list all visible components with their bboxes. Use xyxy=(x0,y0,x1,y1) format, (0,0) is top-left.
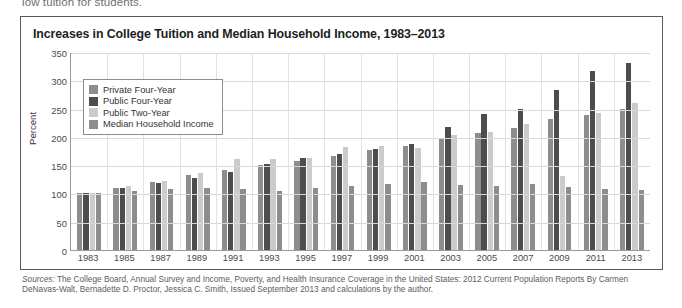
vertical-gridline xyxy=(433,53,434,250)
bar-group xyxy=(541,53,577,250)
x-axis-ticks: 1983198519871989199119931995199719992001… xyxy=(70,253,650,267)
x-tick-label: 1993 xyxy=(251,253,287,267)
bar-group xyxy=(469,53,505,250)
x-tick-label: 2013 xyxy=(614,253,650,267)
bar xyxy=(343,147,348,250)
y-axis-ticks: 050100150200250300350 xyxy=(35,53,67,251)
bar xyxy=(270,159,275,250)
bar xyxy=(228,172,233,250)
x-tick-label: 1989 xyxy=(179,253,215,267)
y-tick-label: 150 xyxy=(35,161,67,172)
bar xyxy=(373,149,378,250)
bar xyxy=(331,156,336,250)
vertical-gridline xyxy=(324,53,325,250)
bar xyxy=(518,109,523,250)
bar xyxy=(300,158,305,250)
x-tick-label: 1991 xyxy=(215,253,251,267)
bar xyxy=(168,189,173,250)
x-tick-label: 2011 xyxy=(578,253,614,267)
x-tick-label: 1987 xyxy=(143,253,179,267)
bar xyxy=(596,113,601,250)
x-tick-label: 2001 xyxy=(396,253,432,267)
bar xyxy=(445,127,450,250)
bar xyxy=(204,188,209,250)
legend-item[interactable]: Public Four-Year xyxy=(89,96,214,108)
x-tick-label: 1999 xyxy=(360,253,396,267)
x-tick-label: 1983 xyxy=(70,253,106,267)
legend-swatch-icon xyxy=(89,108,98,117)
bar xyxy=(277,191,282,250)
sources-label: Sources: xyxy=(22,274,55,284)
bar xyxy=(524,124,529,250)
plot-area-wrapper: Percent 050100150200250300350 1983198519… xyxy=(21,17,664,269)
bar xyxy=(337,154,342,250)
bar-group xyxy=(252,53,288,250)
bar xyxy=(113,188,118,250)
bar xyxy=(162,181,167,250)
bar xyxy=(132,191,137,250)
bar-group xyxy=(361,53,397,250)
y-tick-label: 100 xyxy=(35,189,67,200)
page-root: low tuition for students. Increases in C… xyxy=(0,0,682,308)
bar-group xyxy=(614,53,650,250)
bar xyxy=(150,182,155,250)
legend-label: Median Household Income xyxy=(103,119,214,129)
bar xyxy=(639,190,644,250)
y-tick-label: 50 xyxy=(35,217,67,228)
vertical-gridline xyxy=(397,53,398,250)
legend-item[interactable]: Private Four-Year xyxy=(89,84,214,96)
x-tick-label: 2007 xyxy=(505,253,541,267)
bar xyxy=(307,158,312,250)
vertical-gridline xyxy=(578,53,579,250)
bar xyxy=(379,146,384,250)
bar-group xyxy=(433,53,469,250)
legend-label: Public Four-Year xyxy=(103,96,172,106)
y-tick-label: 0 xyxy=(35,246,67,257)
bar xyxy=(264,164,269,250)
bar xyxy=(349,186,354,250)
legend-item[interactable]: Median Household Income xyxy=(89,119,214,131)
x-tick-label: 2009 xyxy=(541,253,577,267)
vertical-gridline xyxy=(361,53,362,250)
vertical-gridline xyxy=(541,53,542,250)
legend-item[interactable]: Public Two-Year xyxy=(89,107,214,119)
y-tick-label: 300 xyxy=(35,76,67,87)
bar xyxy=(511,128,516,250)
bar xyxy=(294,161,299,250)
preceding-body-text: low tuition for students. xyxy=(22,0,142,8)
y-tick-label: 350 xyxy=(35,48,67,59)
legend-swatch-icon xyxy=(89,85,98,94)
bar xyxy=(409,144,414,250)
bar xyxy=(566,187,571,250)
bar xyxy=(602,189,607,250)
vertical-gridline xyxy=(469,53,470,250)
bar xyxy=(222,170,227,250)
bar xyxy=(620,109,625,250)
vertical-gridline xyxy=(288,53,289,250)
x-tick-label: 1985 xyxy=(106,253,142,267)
bar xyxy=(554,90,559,250)
bar xyxy=(632,103,637,250)
chart-legend: Private Four-YearPublic Four-YearPublic … xyxy=(83,79,223,135)
vertical-gridline xyxy=(505,53,506,250)
bar xyxy=(488,132,493,250)
bar-group xyxy=(578,53,614,250)
bar xyxy=(186,175,191,250)
sources-body: The College Board, Annual Survey and Inc… xyxy=(22,274,628,294)
legend-label: Private Four-Year xyxy=(103,85,176,95)
bar-group xyxy=(288,53,324,250)
bar xyxy=(415,148,420,250)
bar xyxy=(451,135,456,250)
bar xyxy=(481,114,486,250)
bar xyxy=(198,173,203,251)
x-tick-label: 2003 xyxy=(433,253,469,267)
x-tick-label: 2005 xyxy=(469,253,505,267)
bar xyxy=(313,188,318,250)
y-tick-label: 200 xyxy=(35,132,67,143)
legend-label: Public Two-Year xyxy=(103,108,170,118)
x-tick-label: 1997 xyxy=(324,253,360,267)
bar xyxy=(475,133,480,250)
bar xyxy=(234,159,239,250)
vertical-gridline xyxy=(614,53,615,250)
bar-group xyxy=(397,53,433,250)
